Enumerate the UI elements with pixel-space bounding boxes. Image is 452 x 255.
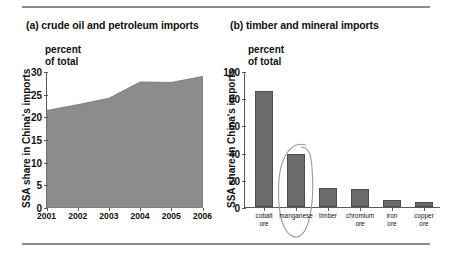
- panel-b-category-label-line: ore: [387, 220, 398, 228]
- panel-b-category-label-line: manganese: [279, 212, 312, 220]
- panel-b-x-axis-line: [244, 207, 440, 208]
- panel-a-unit-line1: percent: [45, 44, 81, 56]
- panel-b-y-tick-label: 40: [229, 148, 240, 159]
- panel-a-plot-area: 051015202530200120022003200420052006: [46, 72, 203, 208]
- panel-b-category-label: copperore: [414, 212, 434, 227]
- panel-b-y-tick: [242, 181, 246, 182]
- bar-iron-ore[interactable]: [383, 200, 401, 207]
- panel-b-category-label: ironore: [387, 212, 398, 227]
- panel-a-unit-label: percent of total: [45, 44, 81, 67]
- bar-cobalt-ore[interactable]: [255, 91, 273, 207]
- panel-b-x-tick: [360, 208, 361, 211]
- panel-b-unit-label: percent of total: [248, 44, 284, 67]
- panel-a-y-tick-label: 10: [31, 157, 42, 168]
- panel-a-y-tick-label: 5: [36, 180, 42, 191]
- panel-b-y-tick-label: 100: [223, 67, 240, 78]
- panel-b-category-label-line: chromium: [346, 212, 374, 220]
- panel-a-x-tick-label: 2001: [37, 211, 56, 221]
- panel-a-y-tick: [44, 72, 48, 73]
- panel-b-x-tick: [424, 208, 425, 211]
- panel-b-category-label: cobaltore: [255, 212, 272, 227]
- panel-b-unit-line2: of total: [248, 56, 284, 68]
- panel-b-plot-area: 020406080100cobaltoremanganesetimberchro…: [244, 72, 440, 208]
- figure-container: (a) crude oil and petroleum imports perc…: [0, 0, 452, 255]
- bar-manganese[interactable]: [287, 154, 305, 207]
- panel-a-y-tick: [44, 95, 48, 96]
- panel-b-unit-line1: percent: [248, 44, 284, 56]
- panel-b-category-label: manganese: [279, 212, 312, 220]
- panel-b-y-tick: [242, 99, 246, 100]
- panel-a-y-tick: [44, 117, 48, 118]
- panel-b-category-label-line: ore: [346, 220, 374, 228]
- panel-b-y-axis-title: SSA share in China's imports: [226, 69, 237, 208]
- panel-b-category-label-line: copper: [414, 212, 434, 220]
- bar-chromium-ore[interactable]: [351, 189, 369, 207]
- panel-b-y-tick-label: 20: [229, 175, 240, 186]
- panel-a-x-tick-label: 2002: [68, 211, 87, 221]
- panel-a-y-tick-label: 25: [31, 89, 42, 100]
- panel-b-category-label-line: ore: [414, 220, 434, 228]
- bottom-rule: [22, 243, 430, 245]
- panel-a-y-tick-label: 20: [31, 112, 42, 123]
- panel-a-unit-line2: of total: [45, 56, 81, 68]
- panel-b-timber-mineral: (b) timber and mineral imports percent o…: [226, 0, 452, 243]
- panel-b-y-tick: [242, 72, 246, 73]
- manganese-highlight-ellipse: [244, 72, 440, 242]
- panel-b-x-tick: [296, 208, 297, 211]
- panel-b-y-tick: [242, 126, 246, 127]
- panel-b-category-label-line: cobalt: [255, 212, 272, 220]
- panel-b-x-tick: [328, 208, 329, 211]
- panel-a-area-polygon: [47, 77, 203, 208]
- panel-a-y-tick-label: 15: [31, 135, 42, 146]
- panel-a-x-tick-label: 2005: [162, 211, 181, 221]
- panel-a-y-tick-label: 30: [31, 67, 42, 78]
- panel-b-y-tick-label: 80: [229, 94, 240, 105]
- panel-a-x-tick-label: 2004: [131, 211, 150, 221]
- panel-b-category-label-line: iron: [387, 212, 398, 220]
- panel-b-y-tick: [242, 154, 246, 155]
- panel-a-x-tick-label: 2003: [99, 211, 118, 221]
- panel-b-title: (b) timber and mineral imports: [230, 19, 379, 31]
- panel-b-category-label-line: ore: [255, 220, 272, 228]
- panel-b-x-tick: [392, 208, 393, 211]
- panel-b-y-tick: [242, 208, 246, 209]
- panel-a-x-tick-label: 2006: [193, 211, 212, 221]
- panel-b-y-axis-line: [244, 72, 245, 208]
- panel-a-y-tick: [44, 185, 48, 186]
- panel-a-title: (a) crude oil and petroleum imports: [26, 19, 199, 31]
- panel-b-category-label: chromiumore: [346, 212, 374, 227]
- panel-a-crude-oil: (a) crude oil and petroleum imports perc…: [0, 0, 226, 243]
- panel-b-category-label-line: timber: [319, 212, 337, 220]
- panel-a-area-series: [46, 72, 203, 208]
- panel-a-y-tick: [44, 163, 48, 164]
- panel-b-y-tick-label: 0: [234, 203, 240, 214]
- panel-b-y-tick-label: 60: [229, 121, 240, 132]
- panel-b-category-label: timber: [319, 212, 337, 220]
- bar-copper-ore[interactable]: [415, 202, 433, 207]
- panel-a-y-tick: [44, 140, 48, 141]
- panel-b-x-tick: [264, 208, 265, 211]
- bar-timber[interactable]: [319, 188, 337, 207]
